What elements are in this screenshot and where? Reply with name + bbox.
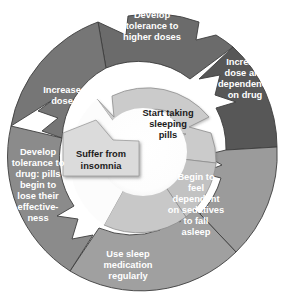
cycle-diagram-svg: Develop tolerance to higher doses Increa… [0,0,287,307]
cycle-diagram: Develop tolerance to higher doses Increa… [0,0,287,307]
